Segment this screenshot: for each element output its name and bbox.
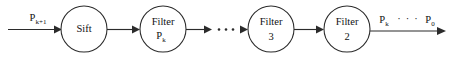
edge-ellipsis-to-filter-3 bbox=[240, 26, 248, 34]
edge-ellipsis-to-filter-3-arrowhead bbox=[240, 26, 248, 34]
mid-ellipsis-dot-2 bbox=[225, 28, 228, 31]
node-filter-3-label-line1: Filter bbox=[260, 16, 283, 27]
node-filter-pk-circle[interactable] bbox=[140, 6, 186, 52]
pipeline-diagram: Pk+1 Sift Filter Pk bbox=[0, 0, 454, 58]
node-filter-2-label-line2: 2 bbox=[344, 31, 349, 42]
edge-sift-to-filter-pk-arrowhead bbox=[132, 26, 140, 34]
node-filter-pk-label-line1: Filter bbox=[152, 16, 175, 27]
node-filter-2[interactable]: Filter 2 bbox=[324, 6, 370, 52]
edge-filter-3-to-filter-2-arrowhead bbox=[316, 26, 324, 34]
edge-label-output-pk-sub: k bbox=[385, 20, 389, 28]
node-sift[interactable]: Sift bbox=[61, 6, 107, 52]
node-sift-label: Sift bbox=[76, 23, 91, 34]
edge-input-to-sift: Pk+1 bbox=[8, 12, 62, 34]
node-filter-2-label-line1: Filter bbox=[336, 16, 359, 27]
node-filter-3-circle[interactable] bbox=[248, 6, 294, 52]
node-filter-pk-label-sub: k bbox=[162, 35, 166, 43]
mid-ellipsis bbox=[218, 28, 235, 31]
pipeline-flow-svg: Pk+1 Sift Filter Pk bbox=[0, 0, 454, 58]
edge-filter-pk-to-ellipsis bbox=[186, 26, 212, 34]
edge-label-output-ellipsis: · · · bbox=[397, 13, 419, 24]
edge-label-output-pk: Pk bbox=[379, 14, 389, 28]
node-filter-pk[interactable]: Filter Pk bbox=[140, 6, 186, 52]
node-filter-3[interactable]: Filter 3 bbox=[248, 6, 294, 52]
mid-ellipsis-dot-1 bbox=[218, 28, 221, 31]
edge-filter-2-to-output: Pk · · · P0 bbox=[370, 13, 446, 35]
edge-filter-2-to-output-arrowhead bbox=[437, 27, 446, 35]
edge-label-input-sub: k+1 bbox=[35, 18, 46, 26]
node-filter-3-label-line2: 3 bbox=[268, 31, 273, 42]
mid-ellipsis-dot-3 bbox=[232, 28, 235, 31]
edge-label-input: Pk+1 bbox=[30, 12, 47, 26]
edge-filter-pk-to-ellipsis-arrowhead bbox=[204, 26, 212, 34]
edge-filter-3-to-filter-2 bbox=[294, 26, 324, 34]
node-filter-2-circle[interactable] bbox=[324, 6, 370, 52]
edge-sift-to-filter-pk bbox=[107, 26, 140, 34]
edge-label-output-p0: P0 bbox=[425, 14, 435, 28]
edge-label-output-p0-sub: 0 bbox=[431, 20, 435, 28]
